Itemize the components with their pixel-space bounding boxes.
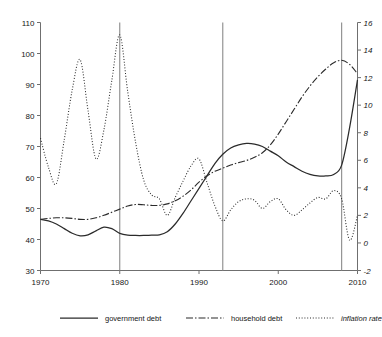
y-tick-label-60: 60 — [26, 174, 35, 183]
y-tick-label-90: 90 — [26, 81, 35, 90]
legend-label-household-debt: household debt — [231, 314, 283, 323]
y2-tick-label-4: 4 — [364, 184, 369, 193]
axis-frame — [41, 23, 358, 271]
y-tick-label-50: 50 — [26, 205, 35, 214]
y2-tick-label-2: 2 — [363, 211, 369, 220]
y-tick-label-100: 100 — [21, 50, 35, 59]
x-tick-label-2000: 2000 — [269, 278, 287, 287]
y2-tick-label-0: 0 — [364, 239, 369, 248]
y-tick-label-110: 110 — [22, 19, 35, 28]
y2-tick-label-14: 14 — [364, 46, 373, 55]
chart-container: 30405060708090100110-2024681012141619701… — [0, 0, 382, 337]
y2-tick-label-6: 6 — [364, 156, 369, 165]
y-tick-label-30: 30 — [26, 267, 35, 276]
y-tick-label-70: 70 — [26, 143, 35, 152]
legend-item-government-debt: government debt — [60, 314, 162, 323]
legend-item-household-debt: household debt — [186, 314, 283, 323]
x-tick-label-1990: 1990 — [190, 278, 208, 287]
x-tick-label-2010: 2010 — [349, 278, 367, 287]
y-tick-label-40: 40 — [26, 236, 35, 245]
y2-tick-label-16: 16 — [364, 19, 373, 28]
y2-tick-label-8: 8 — [364, 129, 369, 138]
x-tick-label-1980: 1980 — [111, 278, 129, 287]
legend-item-inflation-rate: inflation rate — [296, 314, 382, 323]
y2-tick-label--2: -2 — [364, 267, 372, 276]
series-line-inflation-rate — [41, 35, 358, 241]
y-tick-label-80: 80 — [26, 112, 35, 121]
y2-tick-label-12: 12 — [364, 74, 373, 83]
line-chart: 30405060708090100110-2024681012141619701… — [0, 0, 382, 337]
legend-label-inflation-rate: inflation rate — [341, 314, 382, 323]
legend-label-government-debt: government debt — [105, 314, 162, 323]
x-tick-label-1970: 1970 — [32, 278, 50, 287]
series-line-government-debt — [41, 80, 358, 236]
series-line-household-debt — [41, 60, 358, 219]
y2-tick-label-10: 10 — [364, 101, 373, 110]
